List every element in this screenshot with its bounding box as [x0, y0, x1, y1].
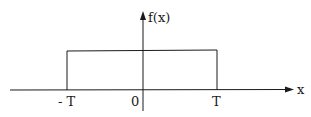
diagram-canvas: f(x) x - T 0 T	[0, 0, 311, 117]
tick-label-origin: 0	[131, 94, 139, 109]
pulse-outline	[67, 50, 217, 90]
tick-label-neg-t: - T	[58, 94, 76, 109]
tick-label-pos-t: T	[212, 94, 221, 109]
x-axis	[10, 90, 288, 91]
pulse-diagram: f(x) x - T 0 T	[0, 0, 311, 117]
y-axis-arrow-icon	[140, 11, 146, 20]
x-axis-label: x	[297, 82, 305, 97]
x-axis-arrow-icon	[285, 87, 294, 93]
y-axis-label: f(x)	[148, 10, 170, 25]
